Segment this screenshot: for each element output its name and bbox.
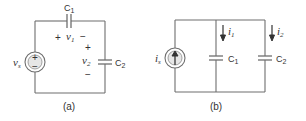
source-label: vs [13,56,21,70]
is-label: is [155,52,161,66]
i2-arrow-icon [270,25,275,41]
c2-label: C2 [276,54,287,65]
panel-a-caption: (a) [63,101,75,112]
v2-plus-sign: + [85,42,91,53]
i2-label: i2 [277,25,284,39]
c2-label: C2 [115,58,126,69]
v2-minus-sign: − [85,69,91,80]
panel-a-series-circuit: + − vs C1 + v1 − + v2 − C2 (a) [13,3,126,112]
c1-label: C1 [64,3,75,14]
panel-b-parallel-circuit: is C1 i1 C2 i2 (b) [155,20,287,112]
voltage-source-icon: + − [25,52,45,72]
capacitor-c2-symbol [98,60,112,64]
current-source-icon [165,48,185,68]
v1-label: v1 [66,30,74,44]
panel-b-caption: (b) [210,101,222,112]
source-minus-sign: − [32,61,38,72]
i1-label: i1 [228,25,235,39]
v1-minus-sign: − [80,31,86,42]
i1-arrow-icon [221,25,226,41]
capacitor-c2-symbol [258,56,272,60]
capacitor-c1-symbol [209,56,223,60]
circuit-figure: + − vs C1 + v1 − + v2 − C2 (a) i [0,0,306,121]
c1-label: C1 [228,54,239,65]
capacitor-c1-symbol [67,14,71,28]
v1-plus-sign: + [55,32,61,43]
v2-label: v2 [82,54,91,68]
